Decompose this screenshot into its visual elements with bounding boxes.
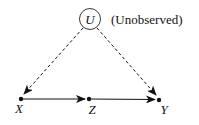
node-z-point [87,97,91,101]
node-y-label: Y [160,102,169,117]
edge-z-y [90,99,155,100]
edge-u-y [97,28,156,95]
edge-u-x [24,28,83,94]
node-u-label: U [85,12,96,27]
node-z-label: Z [88,102,96,117]
node-x-label: X [14,101,24,116]
causal-diagram: U (Unobserved) X Z Y [0,0,199,125]
unobserved-annotation: (Unobserved) [111,12,182,27]
